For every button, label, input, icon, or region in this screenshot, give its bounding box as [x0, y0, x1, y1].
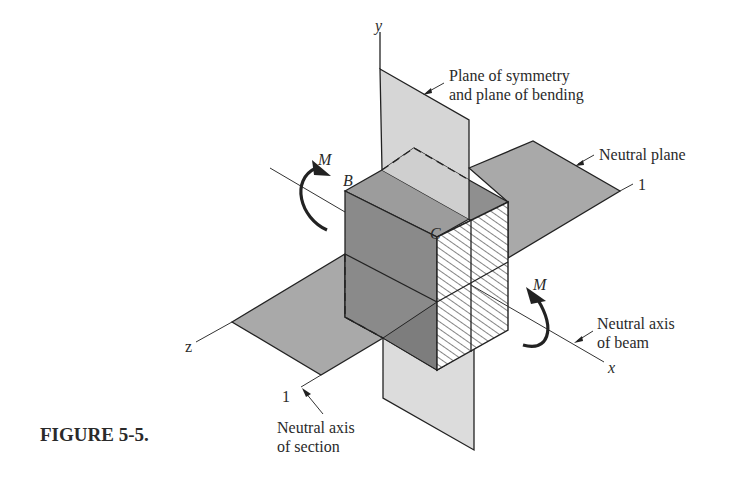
neutral-axis-mark-right: 1: [638, 176, 646, 193]
moment-left-label: M: [317, 151, 333, 168]
beam-axis-leader-arrow-icon: [574, 336, 583, 343]
symmetry-callout-line2: and plane of bending: [449, 86, 584, 104]
section-axis-callout-line1: Neutral axis: [277, 419, 355, 436]
beam-bending-diagram: y x z B C M M 1 1 Plane of symmetry and …: [0, 0, 747, 482]
z-axis-label: z: [185, 338, 192, 355]
neutral-plane-callout: Neutral plane: [599, 146, 686, 164]
symmetry-callout-line1: Plane of symmetry: [449, 67, 570, 85]
moment-right-label: M: [532, 276, 548, 293]
neutral-plane-leader-arrow-icon: [575, 160, 584, 166]
y-axis-label: y: [373, 17, 383, 35]
neutral-axis-mark-left: 1: [282, 388, 290, 405]
x-axis-label: x: [607, 359, 615, 376]
section-axis-left-line: [301, 375, 321, 387]
beam-axis-callout-line2: of beam: [597, 334, 650, 351]
section-axis-leader-arrow-icon: [302, 388, 311, 397]
z-axis-line: [196, 322, 232, 342]
section-axis-callout-line2: of section: [277, 438, 340, 455]
symmetry-leader-arrow-icon: [423, 88, 432, 95]
point-b-label: B: [343, 172, 353, 189]
beam-axis-callout-line1: Neutral axis: [597, 315, 675, 332]
point-c-label: C: [430, 225, 441, 242]
moment-arrow-right-icon: [523, 300, 548, 346]
figure-caption: FIGURE 5-5.: [40, 424, 149, 445]
section-axis-right-tick: [620, 184, 633, 191]
